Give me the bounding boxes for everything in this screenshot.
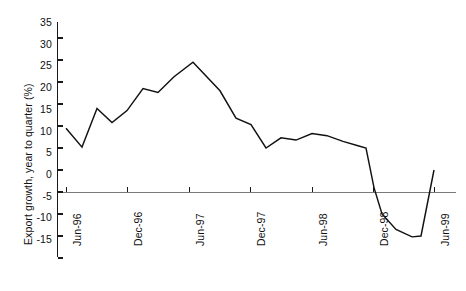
x-axis-ticks [67, 187, 435, 192]
plot-area [0, 0, 466, 291]
export-growth-series-line [66, 62, 434, 237]
y-axis-ticks [58, 38, 63, 258]
export-growth-line-chart: Export growth, year to quarter (%) 35 30… [0, 0, 466, 291]
